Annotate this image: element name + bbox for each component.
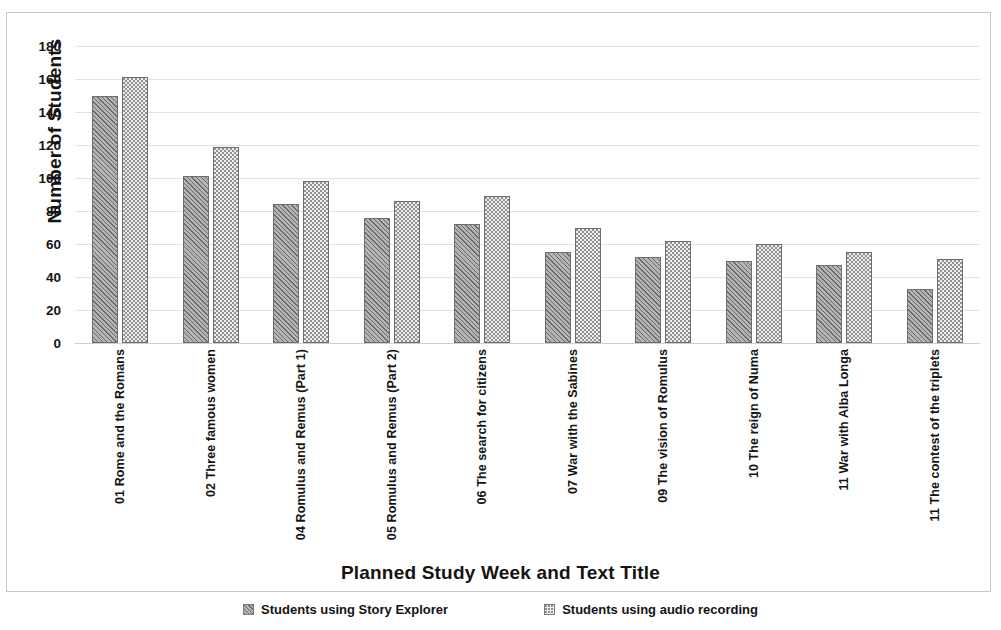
bar — [394, 201, 420, 343]
bar-group — [454, 46, 510, 343]
bar — [92, 96, 118, 344]
x-tick-label: 01 Rome and the Romans — [113, 349, 127, 504]
y-tick-label: 60 — [46, 237, 61, 252]
bar-group — [273, 46, 329, 343]
x-tick-label: 05 Romulus and Remus (Part 2) — [385, 349, 399, 540]
x-label-slot: 04 Romulus and Remus (Part 1) — [273, 343, 329, 543]
bar — [273, 204, 299, 343]
bar — [545, 252, 571, 343]
x-label-slot: 06 The search for citizens — [454, 343, 510, 543]
bar — [726, 261, 752, 344]
y-tick-label: 160 — [38, 72, 61, 87]
bar-group — [183, 46, 239, 343]
x-tick-label: 06 The search for citizens — [475, 349, 489, 504]
bar — [303, 181, 329, 343]
bar-group — [816, 46, 872, 343]
legend-item[interactable]: Students using audio recording — [544, 602, 758, 617]
y-tick-label: 80 — [46, 204, 61, 219]
bar — [635, 257, 661, 343]
bar — [937, 259, 963, 343]
bar-group — [92, 46, 148, 343]
y-axis-tick-labels: 020406080100120140160180 — [0, 46, 70, 343]
x-label-slot: 07 War with the Sabines — [545, 343, 601, 543]
bar — [454, 224, 480, 343]
chart-legend: Students using Story ExplorerStudents us… — [0, 602, 1001, 617]
x-tick-label: 11 The contest of the triplets — [928, 349, 942, 521]
y-tick-label: 20 — [46, 303, 61, 318]
legend-swatch-icon — [243, 604, 254, 615]
x-tick-label: 09 The vision of Romulus — [656, 349, 670, 503]
legend-swatch-icon — [544, 604, 555, 615]
bar — [484, 196, 510, 343]
bar-group — [726, 46, 782, 343]
y-tick-label: 40 — [46, 270, 61, 285]
bar — [907, 289, 933, 343]
x-label-slot: 10 The reign of Numa — [726, 343, 782, 543]
x-label-slot: 09 The vision of Romulus — [635, 343, 691, 543]
x-tick-label: 02 Three famous women — [204, 349, 218, 497]
bar — [213, 147, 239, 343]
bar — [756, 244, 782, 343]
y-tick-label: 100 — [38, 171, 61, 186]
x-tick-label: 11 War with Alba Longa — [837, 349, 851, 491]
bar — [816, 265, 842, 343]
bar — [122, 77, 148, 343]
x-label-slot: 11 War with Alba Longa — [816, 343, 872, 543]
y-tick-label: 0 — [53, 336, 61, 351]
bars-layer — [75, 46, 980, 343]
x-tick-label: 10 The reign of Numa — [747, 349, 761, 478]
x-tick-label: 04 Romulus and Remus (Part 1) — [294, 349, 308, 540]
x-label-slot: 02 Three famous women — [183, 343, 239, 543]
x-axis-tick-labels: 01 Rome and the Romans02 Three famous wo… — [75, 343, 980, 548]
x-label-slot: 11 The contest of the triplets — [907, 343, 963, 543]
x-label-slot: 05 Romulus and Remus (Part 2) — [364, 343, 420, 543]
bar — [665, 241, 691, 343]
y-tick-label: 140 — [38, 105, 61, 120]
bar — [364, 218, 390, 343]
legend-label: Students using audio recording — [562, 602, 758, 617]
bar-group — [545, 46, 601, 343]
y-tick-label: 120 — [38, 138, 61, 153]
bar-group — [364, 46, 420, 343]
legend-label: Students using Story Explorer — [261, 602, 448, 617]
bar-group — [907, 46, 963, 343]
bar-group — [635, 46, 691, 343]
x-tick-label: 07 War with the Sabines — [566, 349, 580, 494]
bar — [846, 252, 872, 343]
x-axis-title: Planned Study Week and Text Title — [0, 562, 1001, 584]
bar-chart-figure: Number of Students 020406080100120140160… — [0, 0, 1001, 630]
bar — [575, 228, 601, 344]
legend-item[interactable]: Students using Story Explorer — [243, 602, 448, 617]
bar — [183, 176, 209, 343]
x-label-slot: 01 Rome and the Romans — [92, 343, 148, 543]
plot-area — [75, 46, 980, 343]
y-tick-label: 180 — [38, 39, 61, 54]
